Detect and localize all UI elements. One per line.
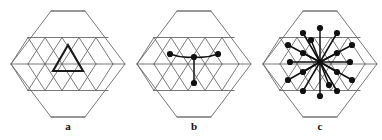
graph-node [300, 50, 306, 56]
graph-node [287, 59, 293, 65]
graph-node [317, 93, 323, 99]
graph-node [347, 59, 353, 65]
graph-node-hub [317, 59, 323, 65]
panel-label-b: b [184, 120, 204, 132]
panel-label-c: c [310, 120, 330, 132]
graph-node [317, 25, 323, 31]
panel-label-a: a [58, 120, 78, 132]
graph-node [308, 37, 314, 43]
graph-node [300, 69, 306, 75]
graph-node [334, 88, 340, 94]
graph-node [334, 69, 340, 75]
graph-node [167, 51, 173, 57]
graph-node [300, 88, 306, 94]
graph-node-hub [191, 54, 197, 60]
figure-three-hexagonal-lattices [0, 0, 382, 140]
graph-node [334, 50, 340, 56]
graph-node [285, 77, 291, 83]
graph-node [300, 30, 306, 36]
graph-node [326, 82, 332, 88]
graph-node [334, 30, 340, 36]
graph-node [349, 77, 355, 83]
graph-node [285, 42, 291, 48]
graph-node [349, 42, 355, 48]
graph-node [215, 51, 221, 57]
graph-node [191, 80, 197, 86]
